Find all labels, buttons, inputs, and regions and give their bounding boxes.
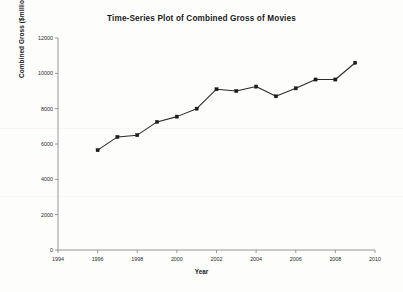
data-point-marker [274,95,277,98]
y-axis-ticks: 020004000600080001000012000 [38,35,58,253]
data-point-marker [215,88,218,91]
data-point-marker [354,61,357,64]
x-tick-label: 2004 [250,256,262,262]
data-point-marker [314,78,317,81]
data-point-marker [116,135,119,138]
series-line-combined-gross [98,63,356,150]
x-tick-label: 2010 [369,256,381,262]
x-tick-label: 1996 [92,256,104,262]
data-point-marker [155,120,158,123]
y-axis-title: Combined Gross ($millions) [18,0,25,78]
x-axis-ticks: 199419961998200020022004200620082010 [52,250,381,262]
data-point-marker [255,85,258,88]
data-point-marker [334,78,337,81]
x-tick-label: 2008 [329,256,341,262]
y-tick-label: 2000 [41,212,53,218]
y-tick-label: 10000 [38,70,53,76]
x-tick-label: 1998 [131,256,143,262]
x-tick-label: 1994 [52,256,64,262]
y-tick-label: 4000 [41,176,53,182]
line-chart-plot-area: 020004000600080001000012000 199419961998… [0,0,403,292]
data-point-marker [136,134,139,137]
x-axis-title: Year [0,268,403,275]
data-point-marker [195,107,198,110]
y-tick-label: 6000 [41,141,53,147]
x-tick-label: 2000 [171,256,183,262]
series-markers [96,61,357,152]
x-tick-label: 2006 [290,256,302,262]
y-tick-label: 12000 [38,35,53,41]
x-tick-label: 2002 [211,256,223,262]
data-point-marker [294,87,297,90]
y-tick-label: 0 [50,247,53,253]
chart-figure: Time-Series Plot of Combined Gross of Mo… [0,0,403,292]
y-tick-label: 8000 [41,106,53,112]
data-point-marker [175,115,178,118]
data-point-marker [235,89,238,92]
data-point-marker [96,149,99,152]
